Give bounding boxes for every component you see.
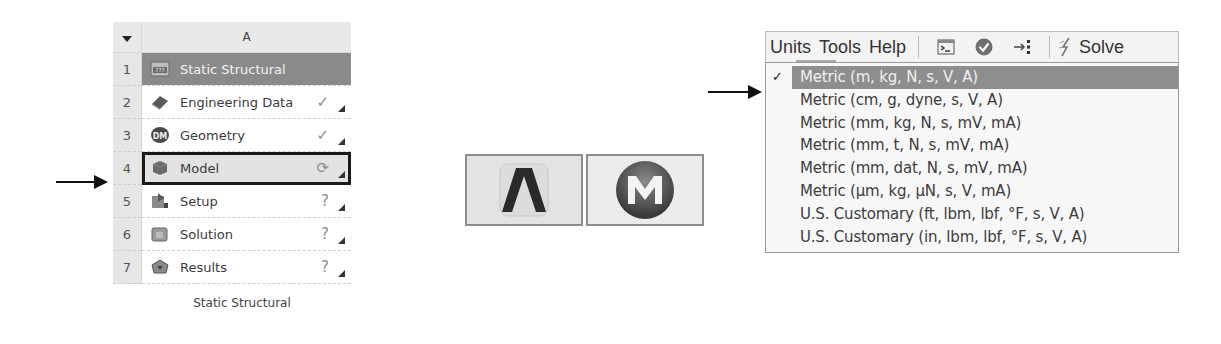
model-icon [150, 159, 170, 177]
row-label: Setup [180, 194, 218, 209]
solution-icon [150, 225, 170, 243]
row-number: 2 [113, 86, 142, 119]
units-menu-panel: Units Tools Help Solve ✓Metric (m, kg, N… [765, 31, 1179, 253]
pointer-arrow-metric [708, 91, 760, 93]
static-structural-icon: 777 [150, 60, 170, 78]
units-option-us-in-lbm[interactable]: U.S. Customary (in, lbm, lbf, °F, s, V, … [766, 226, 1178, 249]
command-window-icon[interactable] [936, 37, 956, 57]
option-label: Metric (m, kg, N, s, V, A) [800, 68, 978, 86]
question-icon: ? [321, 192, 329, 210]
context-menu-corner-icon[interactable] [338, 270, 345, 277]
schematic-header-row: A [113, 22, 351, 53]
column-header-a: A [142, 22, 352, 53]
pointer-arrow-model [56, 181, 106, 183]
solve-label: Solve [1079, 37, 1124, 58]
schematic-row-setup[interactable]: 5 Setup ? [113, 185, 351, 218]
units-option-us-ft-lbm[interactable]: U.S. Customary (ft, lbm, lbf, °F, s, V, … [766, 203, 1178, 226]
app-launcher-group [465, 154, 704, 226]
solve-button[interactable]: Solve [1058, 37, 1124, 58]
row-number: 1 [113, 53, 142, 86]
collapse-toggle[interactable] [113, 22, 142, 53]
row-label: Model [180, 161, 219, 176]
check-icon: ✓ [316, 93, 329, 111]
toolbar-separator [918, 36, 919, 58]
context-menu-corner-icon[interactable] [338, 237, 345, 244]
context-menu-corner-icon[interactable] [338, 171, 345, 178]
units-option-metric-mm-dat[interactable]: Metric (mm, dat, N, s, mV, mA) [766, 157, 1178, 180]
menu-units[interactable]: Units [766, 37, 815, 58]
engineering-data-icon [150, 93, 170, 111]
row-label: Static Structural [180, 62, 286, 77]
units-dropdown: ✓Metric (m, kg, N, s, V, A) Metric (cm, … [765, 62, 1179, 253]
row-number: 7 [113, 251, 142, 284]
check-circle-icon[interactable] [974, 37, 994, 57]
ansys-logo-button[interactable] [465, 154, 583, 226]
row-number: 4 [113, 152, 142, 185]
menu-help[interactable]: Help [865, 37, 910, 58]
schematic-table: A 1 777 Static Structural 2 Engineering … [113, 22, 351, 284]
schematic-row-solution[interactable]: 6 Solution ? [113, 218, 351, 251]
units-option-metric-mm-kg[interactable]: Metric (mm, kg, N, s, mV, mA) [766, 112, 1178, 135]
project-schematic-system: A 1 777 Static Structural 2 Engineering … [113, 22, 351, 310]
lightning-icon [1058, 37, 1076, 57]
schematic-row-model[interactable]: 4 Model ⟳ [113, 152, 351, 185]
row-number: 3 [113, 119, 142, 152]
results-icon [150, 258, 170, 276]
geometry-dm-icon: DM [150, 126, 170, 144]
system-caption[interactable]: Static Structural [113, 296, 351, 310]
schematic-row-engineering-data[interactable]: 2 Engineering Data ✓ [113, 86, 351, 119]
units-option-metric-um-kg[interactable]: Metric (µm, kg, µN, s, V, mA) [766, 180, 1178, 203]
svg-text:777: 777 [155, 67, 165, 73]
checkmark-icon: ✓ [772, 66, 783, 89]
row-label: Geometry [180, 128, 245, 143]
mechanical-logo-button[interactable] [586, 154, 704, 226]
row-number: 5 [113, 185, 142, 218]
svg-text:DM: DM [153, 132, 168, 141]
units-option-metric-mm-t[interactable]: Metric (mm, t, N, s, mV, mA) [766, 134, 1178, 157]
setup-icon [150, 192, 170, 210]
check-icon: ✓ [316, 126, 329, 144]
toolbar-separator [1049, 36, 1050, 58]
ansys-logo-icon [494, 160, 554, 220]
triangle-down-icon [122, 36, 132, 42]
schematic-row-results[interactable]: 7 Results ? [113, 251, 351, 284]
row-label: Solution [180, 227, 233, 242]
units-option-metric-cm-g[interactable]: Metric (cm, g, dyne, s, V, A) [766, 89, 1178, 112]
row-label: Engineering Data [180, 95, 293, 110]
row-number: 6 [113, 218, 142, 251]
question-icon: ? [321, 258, 329, 276]
connect-points-icon[interactable] [1012, 37, 1032, 57]
schematic-row-title[interactable]: 1 777 Static Structural [113, 53, 351, 86]
row-label: Results [180, 260, 227, 275]
menu-tools[interactable]: Tools [815, 37, 865, 58]
context-menu-corner-icon[interactable] [338, 138, 345, 145]
question-icon: ? [321, 225, 329, 243]
menu-bar: Units Tools Help Solve [765, 31, 1179, 62]
context-menu-corner-icon[interactable] [338, 204, 345, 211]
refresh-required-icon: ⟳ [316, 159, 329, 177]
units-option-metric-m-kg[interactable]: ✓Metric (m, kg, N, s, V, A) [792, 66, 1178, 89]
mechanical-m-icon [613, 158, 677, 222]
schematic-row-geometry[interactable]: 3 DM Geometry ✓ [113, 119, 351, 152]
context-menu-corner-icon[interactable] [338, 105, 345, 112]
